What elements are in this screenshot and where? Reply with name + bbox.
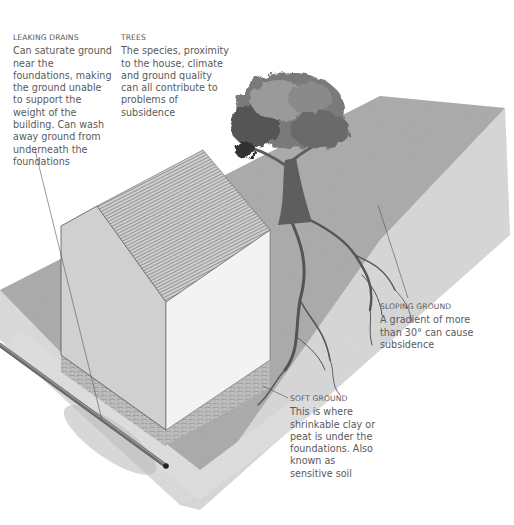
annotation-trees: TREES The species, proximity to the hous…: [121, 32, 231, 119]
annotation-title: SLOPING GROUND: [380, 301, 480, 313]
annotation-title: SOFT GROUND: [290, 393, 380, 405]
annotation-body: This is where shrinkable clay or peat is…: [290, 406, 380, 480]
annotation-title: TREES: [121, 32, 231, 44]
annotation-sloping-ground: SLOPING GROUND A gradient of more than 3…: [380, 301, 480, 351]
annotation-leaking-drains: LEAKING DRAINS Can saturate ground near …: [13, 32, 113, 168]
annotation-title: LEAKING DRAINS: [13, 32, 113, 44]
annotation-body: Can saturate ground near the foundations…: [13, 45, 113, 168]
annotation-body: The species, proximity to the house, cli…: [121, 45, 231, 119]
foliage: [230, 72, 350, 159]
annotation-soft-ground: SOFT GROUND This is where shrinkable cla…: [290, 393, 380, 480]
annotation-body: A gradient of more than 30° can cause su…: [380, 314, 480, 351]
